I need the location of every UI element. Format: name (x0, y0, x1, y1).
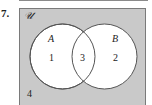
set-b-label: B (112, 34, 118, 44)
set-a-label: A (48, 34, 54, 44)
intersection-value: 3 (80, 53, 85, 63)
set-b-only-value: 2 (113, 53, 118, 63)
venn-circles (0, 0, 152, 105)
outside-value: 4 (27, 89, 32, 99)
universal-set-label: 𝒰 (24, 11, 33, 21)
set-a-only-value: 1 (49, 53, 54, 63)
